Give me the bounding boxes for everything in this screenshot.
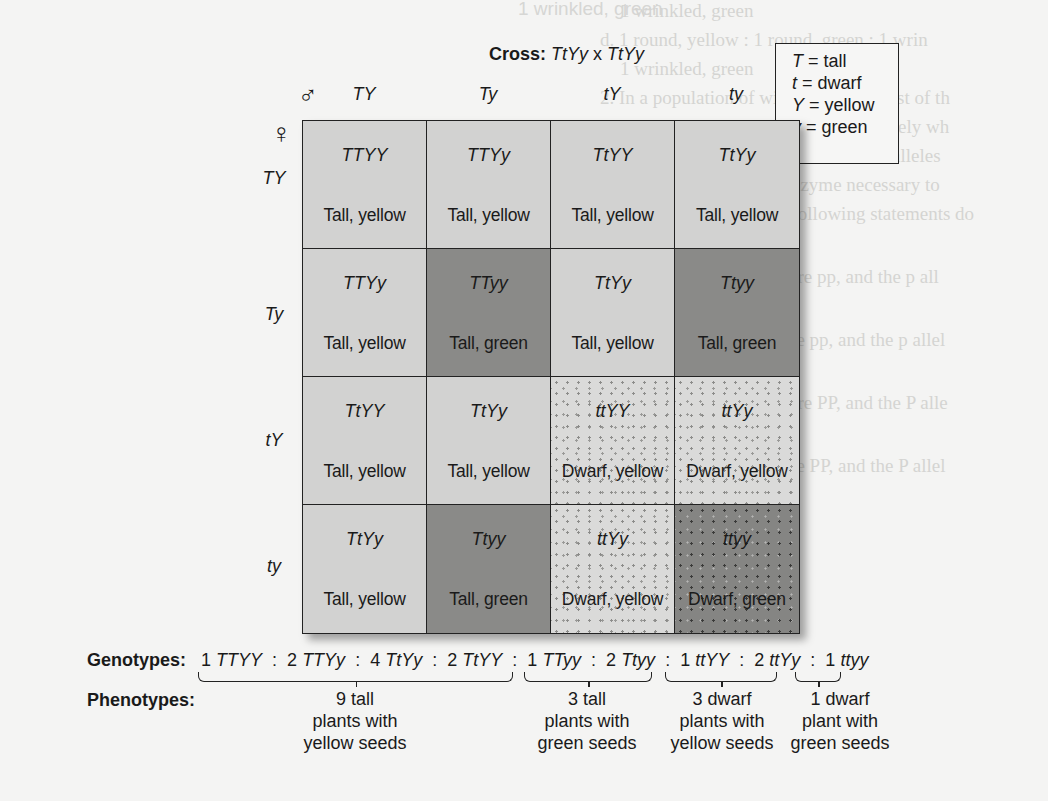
female-gamete-2: Ty xyxy=(256,304,292,325)
female-gamete-3: tY xyxy=(256,430,292,451)
punnett-cell: TTYy Tall, yellow xyxy=(303,249,427,377)
brace-dwarf-green xyxy=(795,672,841,682)
punnett-cell: TtYy Tall, yellow xyxy=(675,121,799,249)
punnett-square: TTYY Tall, yellow TTYy Tall, yellow TtYY… xyxy=(302,120,800,634)
phenotype-group-dwarf-green: 1 dwarf plant with green seeds xyxy=(778,688,902,754)
punnett-cell: ttYY Dwarf, yellow xyxy=(551,377,675,505)
punnett-cell: TtYy Tall, yellow xyxy=(551,249,675,377)
female-symbol-icon: ♀ xyxy=(271,120,292,148)
cross-title: Cross: TtYy x TtYy xyxy=(489,44,644,65)
male-gamete-2: Ty xyxy=(426,84,550,105)
brace-tall-yellow xyxy=(198,672,513,682)
phenotype-group-tall-yellow: 9 tall plants with yellow seeds xyxy=(280,688,430,754)
phenotype-group-dwarf-yellow: 3 dwarf plants with yellow seeds xyxy=(660,688,784,754)
cross-operator: x xyxy=(593,44,602,64)
brace-dwarf-yellow xyxy=(665,672,777,682)
female-gamete-1: TY xyxy=(256,168,292,189)
punnett-cell: TTyy Tall, green xyxy=(427,249,551,377)
punnett-cell: Ttyy Tall, green xyxy=(675,249,799,377)
legend-item-yellow: Y = yellow xyxy=(792,94,898,116)
phenotype-group-tall-green: 3 tall plants with green seeds xyxy=(522,688,652,754)
phenotypes-label: Phenotypes: xyxy=(87,690,195,711)
brace-tall-green xyxy=(524,672,652,682)
punnett-cell: TtYY Tall, yellow xyxy=(303,377,427,505)
female-gamete-4: ty xyxy=(256,556,292,577)
punnett-cell: TtYy Tall, yellow xyxy=(427,377,551,505)
punnett-cell: TtYY Tall, yellow xyxy=(551,121,675,249)
legend-item-tall: T = tall xyxy=(792,50,898,72)
legend-item-dwarf: t = dwarf xyxy=(792,72,898,94)
punnett-cell: ttYy Dwarf, yellow xyxy=(675,377,799,505)
genotypes-label: Genotypes: xyxy=(87,650,186,671)
male-gamete-3: tY xyxy=(550,84,674,105)
male-gamete-4: ty xyxy=(674,84,798,105)
punnett-cell: Ttyy Tall, green xyxy=(427,505,551,633)
punnett-cell: ttYy Dwarf, yellow xyxy=(551,505,675,633)
cross-label: Cross: xyxy=(489,44,546,64)
punnett-cell: TTYy Tall, yellow xyxy=(427,121,551,249)
cross-parent-2: TtYy xyxy=(607,44,644,64)
punnett-cell: ttyy Dwarf, green xyxy=(675,505,799,633)
legend-item-green: y = green xyxy=(792,116,898,138)
punnett-cell: TTYY Tall, yellow xyxy=(303,121,427,249)
male-gamete-1: TY xyxy=(302,84,426,105)
punnett-cell: TtYy Tall, yellow xyxy=(303,505,427,633)
cross-parent-1: TtYy xyxy=(551,44,588,64)
genotype-ratio-line: 1 TTYY : 2 TTYy : 4 TtYy : 2 TtYY : 1 TT… xyxy=(201,650,868,671)
